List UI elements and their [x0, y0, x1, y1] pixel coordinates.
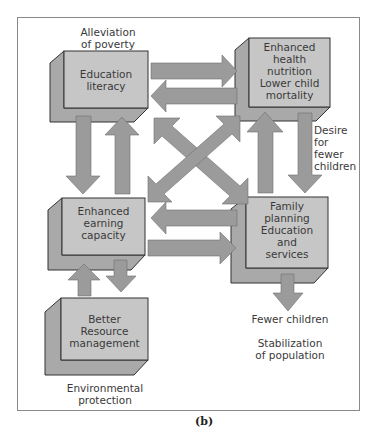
text-line: Desire [314, 124, 360, 136]
label-alleviation-of-poverty: Alleviation of poverty [68, 26, 148, 50]
text-line: literacy [64, 80, 148, 92]
text-line: earning [62, 217, 145, 229]
arrow-earning-to-education [105, 117, 139, 194]
text-line: Resource [61, 325, 148, 337]
text-line: fewer [314, 148, 360, 160]
text-line: Stabilization [250, 337, 330, 349]
arrow-earning-to-family [148, 232, 236, 264]
label-fewer-children: Fewer children [248, 313, 332, 325]
figure-caption: (b) [195, 415, 213, 428]
text-line: Better [61, 313, 148, 325]
text-line: of poverty [68, 38, 148, 50]
node-health-label: Enhanced health nutrition Lower child mo… [249, 41, 330, 101]
label-environmental-protection: Environmental protection [60, 382, 150, 406]
text-line: Environmental [60, 382, 150, 394]
text-line: Fewer children [248, 313, 332, 325]
text-line: for [314, 136, 360, 148]
text-line: Education [64, 68, 148, 80]
text-line: services [246, 248, 328, 260]
text-line: Education [246, 224, 328, 236]
text-line: protection [60, 394, 150, 406]
text-line: children [314, 160, 360, 172]
node-earning-label: Enhanced earning capacity [62, 205, 145, 241]
text-line: and [246, 236, 328, 248]
arrow-education-to-earning [66, 116, 100, 194]
text-line: capacity [62, 229, 145, 241]
node-family-label: Family planning Education and services [246, 200, 328, 260]
text-line: Family [246, 200, 328, 212]
node-resource-label: Better Resource management [61, 313, 148, 349]
arrow-family-to-earning [151, 202, 237, 234]
text-line: of population [250, 349, 330, 361]
text-line: Enhanced [249, 41, 330, 53]
label-stabilization-of-population: Stabilization of population [250, 337, 330, 361]
label-desire-for-fewer-children: Desire for fewer children [314, 124, 360, 172]
text-line: mortality [249, 89, 330, 101]
text-line: health [249, 53, 330, 65]
text-line: nutrition [249, 65, 330, 77]
text-line: Enhanced [62, 205, 145, 217]
arrow-family-to-health [247, 112, 283, 193]
text-line: Lower child [249, 77, 330, 89]
text-line: planning [246, 212, 328, 224]
text-line: Alleviation [68, 26, 148, 38]
node-education-label: Education literacy [64, 68, 148, 92]
text-line: management [61, 337, 148, 349]
